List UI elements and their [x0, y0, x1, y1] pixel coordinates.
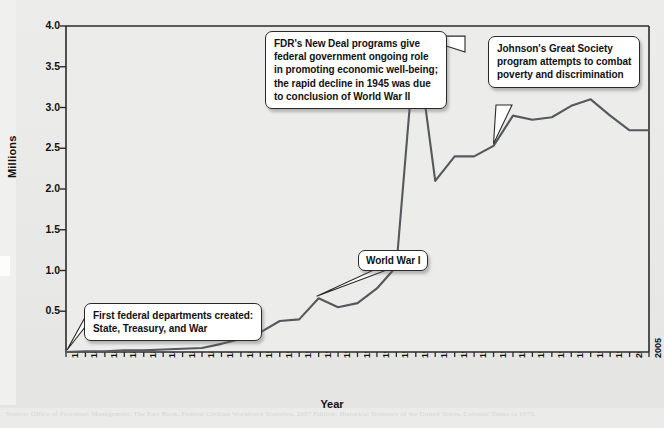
annotation-fdr: FDR's New Deal programs give federal gov… [265, 31, 447, 109]
annotation-fdr-line-2: federal government ongoing role [274, 50, 438, 63]
annotation-first-departments: First federal departments created: State… [84, 303, 262, 341]
annotation-fdr-line-1: FDR's New Deal programs give [274, 37, 438, 50]
y-tick-marks [60, 26, 66, 311]
annotation-johnson-line-2: program attempts to combat [497, 55, 631, 68]
annotation-fdr-line-3: in promoting economic well-being; [274, 63, 438, 76]
annotation-fdr-line-5: to conclusion of World War II [274, 90, 438, 103]
annotation-johnson: Johnson's Great Society program attempts… [488, 36, 640, 88]
annotation-first-line-2: State, Treasury, and War [93, 322, 253, 335]
annotation-johnson-line-1: Johnson's Great Society [497, 42, 631, 55]
annotation-johnson-line-3: poverty and discrimination [497, 68, 631, 81]
annotation-fdr-line-4: the rapid decline in 1945 was due [274, 77, 438, 90]
annotation-world-war-one: World War I [358, 250, 428, 271]
annotation-ww1-line-1: World War I [366, 254, 420, 267]
annotation-first-line-1: First federal departments created: [93, 309, 253, 322]
figure-container: Source: Office of Personnel Management. … [0, 0, 664, 428]
